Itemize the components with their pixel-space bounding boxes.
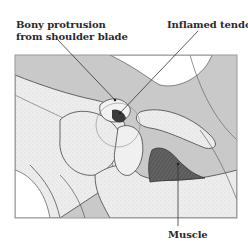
inflamed-tendon-label: Inflamed tendon	[167, 19, 248, 31]
bony-protrusion-label: Bony protrusion from shoulder blade	[16, 19, 128, 43]
muscle-label: Muscle	[168, 229, 208, 241]
illustration-frame	[15, 55, 237, 218]
bony-protrusion-label-line1: Bony protrusion	[16, 19, 128, 31]
bony-protrusion-label-line2: from shoulder blade	[16, 31, 128, 43]
